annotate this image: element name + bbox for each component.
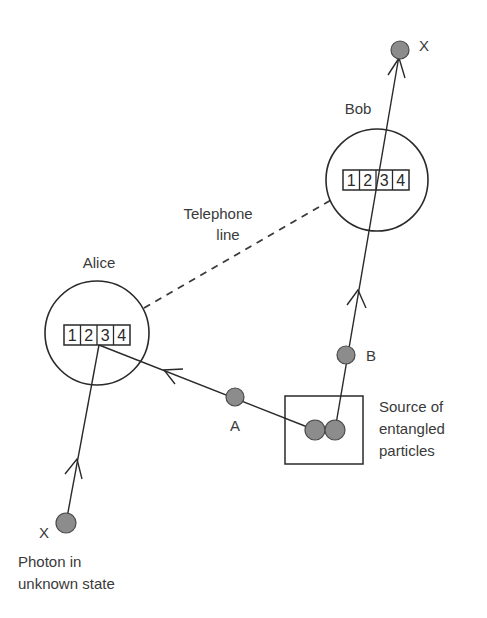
particle-x-teleported [391, 41, 409, 59]
particle-x-top-label: X [419, 37, 429, 54]
entangled-particle-right [325, 420, 345, 440]
entangled-particle-left [305, 420, 325, 440]
bob-register-cell-3: 3 [380, 172, 389, 189]
source-label-line1: Source of [379, 398, 444, 415]
telephone-label-line1: Telephone [183, 205, 252, 222]
alice-register-cell-3: 3 [101, 327, 110, 344]
alice-entangled-path-line [99, 345, 315, 430]
photon-path-line [66, 345, 99, 523]
particle-b [337, 346, 355, 364]
particle-a-label: A [230, 417, 240, 434]
source-label-line3: particles [379, 442, 435, 459]
particle-x-bottom-label: X [39, 524, 49, 541]
alice-register-cell-4: 4 [117, 327, 126, 344]
caption-line1: Photon in [18, 553, 81, 570]
bob-label: Bob [345, 100, 372, 117]
alice-register-cell-2: 2 [84, 327, 93, 344]
telephone-label-line2: line [216, 226, 239, 243]
teleportation-diagram: Telephone line Bob 1 2 3 4 X Alice 1 2 3… [0, 0, 487, 618]
alice-register-cell-1: 1 [68, 327, 77, 344]
arrow-up-icon [65, 459, 82, 479]
alice-register: 1 2 3 4 [64, 325, 130, 345]
particle-b-label: B [366, 347, 376, 364]
particle-x-photon [56, 513, 76, 533]
source-label-line2: entangled [379, 420, 445, 437]
bob-register-cell-1: 1 [347, 172, 356, 189]
caption-line2: unknown state [18, 575, 115, 592]
bob-register-cell-2: 2 [363, 172, 372, 189]
bob-register-cell-4: 4 [396, 172, 405, 189]
particle-a [226, 388, 244, 406]
alice-label: Alice [83, 254, 116, 271]
